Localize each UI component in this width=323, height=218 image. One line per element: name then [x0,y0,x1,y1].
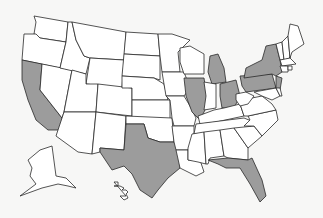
state-indiana: Indiana [204,82,216,110]
state-wisconsin: Wisconsin [180,46,204,74]
state-rhode-island: Rhode Island [288,66,292,70]
state-alaska: Alaska [20,146,76,196]
state-hawaii: Hawaii [114,182,128,200]
state-new-york: New York [244,44,282,78]
state-maine: Maine [288,24,304,58]
state-michigan: Michigan [208,54,226,84]
state-florida: Florida [208,158,266,202]
us-map-svg: WashingtonOregonCaliforniaNevadaIdahoMon… [0,0,323,218]
us-map: WashingtonOregonCaliforniaNevadaIdahoMon… [0,0,323,218]
state-new-mexico: New Mexico [92,112,126,154]
state-arizona: Arizona [56,112,96,154]
state-wyoming: Wyoming [86,58,124,88]
state-massachusetts: Massachusetts [280,58,296,66]
state-north-dakota: North Dakota [124,32,160,56]
state-colorado: Colorado [96,84,132,116]
